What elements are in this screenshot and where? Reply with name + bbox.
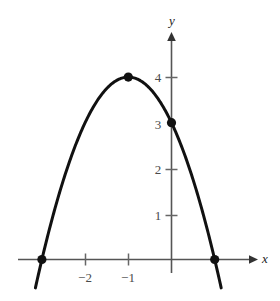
y-axis-arrow-icon: [167, 32, 176, 41]
point-y-intercept: [167, 118, 176, 127]
y-tick-label-2: 2: [155, 162, 162, 177]
x-tick-label-minus1: −1: [121, 270, 135, 285]
point-right-root: [210, 255, 219, 264]
y-tick-label-3: 3: [155, 117, 162, 132]
graph-figure: y x −2 −1 1 2 3 4: [0, 0, 280, 301]
parabola-plot: y x −2 −1 1 2 3 4: [0, 0, 280, 301]
y-tick-label-4: 4: [155, 70, 162, 85]
y-tick-label-1: 1: [155, 208, 162, 223]
x-axis-label: x: [261, 251, 268, 266]
x-axis-arrow-icon: [249, 255, 258, 264]
y-axis-label: y: [167, 13, 175, 28]
point-vertex: [124, 73, 133, 82]
x-tick-label-minus2: −2: [78, 270, 92, 285]
point-left-root: [37, 255, 46, 264]
